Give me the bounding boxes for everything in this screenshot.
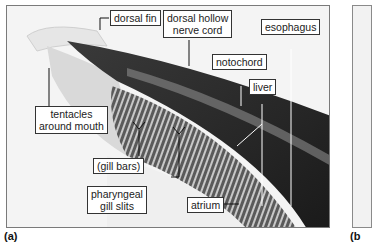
label-dorsal-fin: dorsal fin — [110, 10, 161, 26]
label-liver: liver — [249, 79, 276, 95]
label-pharyngeal-gill-slits: pharyngeal gill slits — [87, 186, 147, 214]
label-tentacles-around-mouth: tentacles around mouth — [35, 106, 108, 134]
label-dorsal-hollow-nerve-cord: dorsal hollow nerve cord — [163, 10, 232, 38]
label-gill-bars: (gill bars) — [93, 158, 144, 174]
label-line: tentacles — [39, 108, 104, 120]
panel-b-photo — [352, 5, 372, 228]
label-line: nerve cord — [167, 24, 228, 36]
caption-panel-a: (a) — [4, 230, 17, 242]
label-esophagus: esophagus — [261, 19, 320, 35]
label-line: pharyngeal — [91, 188, 143, 200]
caption-panel-b: (b — [350, 230, 360, 242]
label-line: gill slits — [91, 200, 143, 212]
label-atrium: atrium — [187, 197, 224, 213]
label-line: dorsal hollow — [167, 12, 228, 24]
label-line: around mouth — [39, 120, 104, 132]
panel-a-lancelet-photo: dorsal fin dorsal hollow nerve cord esop… — [6, 5, 330, 228]
label-notochord: notochord — [212, 54, 267, 70]
